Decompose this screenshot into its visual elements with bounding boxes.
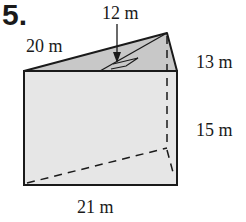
label-slant-top: 20 m — [26, 37, 63, 55]
problem-number: 5. — [2, 0, 27, 30]
label-prism-height: 15 m — [196, 121, 233, 139]
triangular-prism-figure — [0, 0, 246, 222]
front-face — [24, 71, 177, 185]
label-triangle-height: 12 m — [102, 4, 139, 22]
label-base-length: 21 m — [77, 198, 114, 216]
label-side-edge: 13 m — [196, 53, 233, 71]
